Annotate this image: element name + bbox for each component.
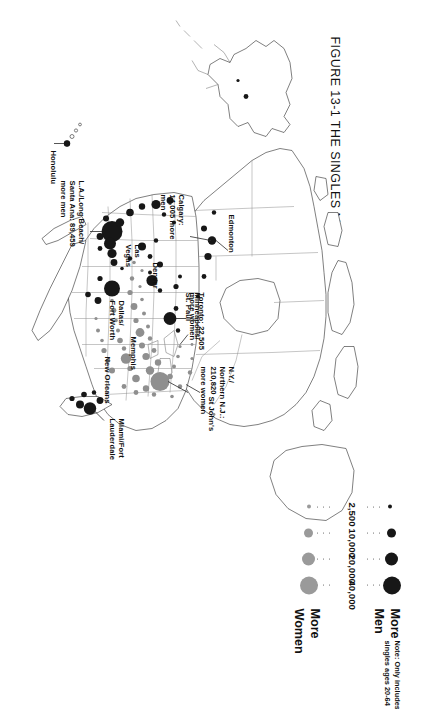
callout-line: 14,005 more xyxy=(168,194,177,239)
legend-dot-men-2500 xyxy=(388,504,392,508)
callout-memphis: Memphis xyxy=(129,336,138,370)
callout-miami: Miami/Fort Lauderdale xyxy=(108,418,126,460)
callout-line: more women xyxy=(199,366,208,418)
callout-line: Edmonton xyxy=(227,214,236,252)
legend-size-label-10000: 10,000 xyxy=(347,528,358,557)
callout-line: Denver xyxy=(151,262,160,288)
legend-note-line1: Note: Only includes xyxy=(393,640,402,709)
callout-new-orleans: New Orleans xyxy=(103,356,112,403)
callout-ny-nj: N.Y./ Northern N.J.: 210,820 more women xyxy=(199,366,236,418)
callout-line: New Orleans xyxy=(103,356,112,403)
legend-dot-women-10000 xyxy=(304,528,313,537)
callout-line: Miami/Fort xyxy=(117,418,126,460)
callout-line: N.Y./ xyxy=(227,366,236,418)
callout-edmonton: Edmonton xyxy=(227,214,236,252)
callout-line: Fort Worth xyxy=(108,300,117,340)
callout-line: Calgary: xyxy=(177,194,186,239)
legend-size-label-2500: 2,500 xyxy=(347,502,358,526)
callout-line: Dallas/ xyxy=(117,300,126,340)
callout-line: 210,820 xyxy=(208,366,217,418)
callout-denver: Denver xyxy=(151,262,160,288)
callout-la: L.A./Long Beach/ Santa Ana: 89,459 more … xyxy=(58,180,86,246)
callout-line: Lauderdale xyxy=(108,418,117,460)
callout-line: more men xyxy=(58,180,67,246)
callout-line: Minneapolis/ xyxy=(193,292,202,339)
legend-dot-men-10000 xyxy=(387,528,396,537)
callout-line: Las xyxy=(133,244,142,266)
callout-line: L.A./Long Beach/ xyxy=(77,180,86,246)
callout-line: Memphis xyxy=(129,336,138,370)
legend-dot-women-20000 xyxy=(302,552,315,565)
legend-heading-more-men-line2: Men xyxy=(372,608,386,633)
legend-note-line2: singles ages 20-64 xyxy=(383,640,392,705)
legend-dot-women-2500 xyxy=(307,504,311,508)
callout-las-vegas: Las Vegas xyxy=(124,244,142,266)
legend-heading-more-women-line2: Women xyxy=(292,608,306,653)
callout-line: men xyxy=(158,194,167,239)
legend-heading-more-women-line1: More xyxy=(308,608,322,638)
legend-dot-men-40000 xyxy=(383,576,401,594)
legend-dot-women-40000 xyxy=(300,576,318,594)
callout-line: Santa Ana: 89,459 xyxy=(68,180,77,246)
callout-minneapolis: Minneapolis/ St. Paul xyxy=(184,292,202,339)
callout-line: Honolulu xyxy=(49,150,58,184)
callout-line: St. Paul xyxy=(184,292,193,339)
legend-size-label-20000: 20,000 xyxy=(347,554,358,583)
callout-honolulu: Honolulu xyxy=(49,150,58,184)
callout-dallas: Dallas/ Fort Worth xyxy=(108,300,126,340)
callout-line: Vegas xyxy=(124,244,133,266)
callout-line: Northern N.J.: xyxy=(218,366,227,418)
callout-calgary: Calgary: 14,005 more men xyxy=(158,194,186,239)
legend-dot-men-20000 xyxy=(385,552,398,565)
legend-size-label-40000: 40,000 xyxy=(347,580,358,609)
legend-heading-more-men-line1: More xyxy=(388,608,402,638)
